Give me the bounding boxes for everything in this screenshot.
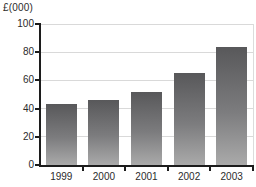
y-tick <box>35 164 39 166</box>
bar-2002 <box>174 73 205 165</box>
plot-right-border <box>253 24 254 165</box>
y-tick <box>35 136 39 138</box>
bar-1999 <box>46 104 77 165</box>
y-axis-unit-label: £(000) <box>3 2 33 13</box>
y-tick-label: 60 <box>8 74 34 86</box>
y-axis-line <box>39 23 41 167</box>
x-tick-label: 1999 <box>40 171 83 183</box>
y-tick-label: 80 <box>8 46 34 58</box>
y-tick <box>35 23 39 25</box>
y-tick <box>35 108 39 110</box>
y-tick-label: 40 <box>8 103 34 115</box>
y-tick-label: 20 <box>8 131 34 143</box>
x-tick-label: 2002 <box>168 171 211 183</box>
x-tick-label: 2003 <box>210 171 253 183</box>
y-tick-label: 0 <box>8 159 34 171</box>
y-tick <box>35 51 39 53</box>
x-tick-label: 2001 <box>125 171 168 183</box>
bar-chart: £(000) 020406080100 19992000200120022003 <box>0 0 256 187</box>
y-tick <box>35 79 39 81</box>
x-tick-label: 2000 <box>83 171 126 183</box>
bar-2003 <box>216 47 247 165</box>
x-axis-line <box>39 165 254 167</box>
bar-2001 <box>131 92 162 165</box>
y-tick-label: 100 <box>8 18 34 30</box>
bar-2000 <box>88 100 119 165</box>
gridline <box>41 24 253 25</box>
